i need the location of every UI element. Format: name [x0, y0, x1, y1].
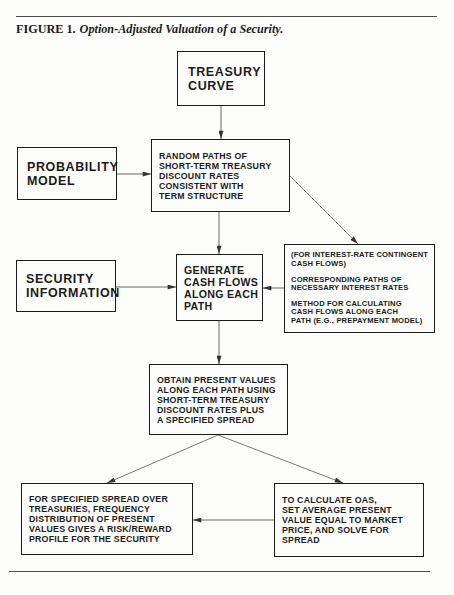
- contingent-paragraph: METHOD FOR CALCULATING CASH FLOWS ALONG …: [291, 300, 434, 326]
- node-text: SET AVERAGE PRESENT: [282, 505, 423, 515]
- node-contingent-inputs: (FOR INTEREST-RATE CONTINGENT CASH FLOWS…: [284, 244, 435, 333]
- node-text: SHORT-TERM TREASURY: [159, 161, 289, 171]
- node-text: SHORT-TERM TREASURY: [157, 395, 287, 405]
- node-random-paths: RANDOM PATHS OF SHORT-TERM TREASURY DISC…: [151, 139, 290, 212]
- node-text: CURVE: [188, 79, 264, 93]
- node-text: PROBABILITY: [27, 160, 116, 174]
- edge-random-to-contingent: [290, 176, 358, 244]
- node-text: ALONG EACH PATH USING: [157, 385, 287, 395]
- node-text: VALUES GIVES A RISK/REWARD: [29, 524, 192, 534]
- node-text: PATH (E.G., PREPAYMENT MODEL): [291, 317, 434, 326]
- node-text: NECESSARY INTEREST RATES: [291, 284, 434, 293]
- node-text: TO CALCULATE OAS,: [282, 495, 423, 505]
- node-text: CONSISTENT WITH: [159, 181, 289, 191]
- contingent-paragraph: (FOR INTEREST-RATE CONTINGENT CASH FLOWS…: [291, 251, 434, 268]
- node-text: PROFILE FOR THE SECURITY: [29, 534, 192, 544]
- node-calculate-oas: TO CALCULATE OAS, SET AVERAGE PRESENT VA…: [274, 483, 424, 557]
- node-text: RANDOM PATHS OF: [159, 151, 289, 161]
- node-text: ALONG EACH: [184, 288, 262, 300]
- node-text: TREASURIES, FREQUENCY: [29, 504, 192, 514]
- bottom-rule: [9, 571, 430, 572]
- node-obtain-present-values: OBTAIN PRESENT VALUES ALONG EACH PATH US…: [149, 364, 288, 435]
- node-text: GENERATE: [184, 264, 262, 276]
- node-risk-reward-profile: FOR SPECIFIED SPREAD OVER TREASURIES, FR…: [21, 483, 193, 555]
- node-text: TERM STRUCTURE: [159, 191, 289, 201]
- node-text: DISCOUNT RATES PLUS: [157, 405, 287, 415]
- node-text: PRICE, AND SOLVE FOR: [282, 525, 423, 535]
- node-text: PATH: [184, 300, 262, 312]
- node-text: INFORMATION: [26, 286, 115, 300]
- node-text: MODEL: [27, 174, 116, 188]
- edge-obtain-to-oas: [218, 435, 343, 483]
- node-probability-model: PROBABILITY MODEL: [17, 147, 117, 200]
- node-text: DISCOUNT RATES: [159, 171, 289, 181]
- node-text: SECURITY: [26, 272, 115, 286]
- node-text: SPREAD: [282, 535, 423, 545]
- node-text: TREASURY: [188, 65, 264, 79]
- node-security-information: SECURITY INFORMATION: [16, 260, 116, 312]
- node-treasury-curve: TREASURY CURVE: [177, 51, 265, 106]
- node-text: CASH FLOWS: [184, 276, 262, 288]
- node-generate-cash-flows: GENERATE CASH FLOWS ALONG EACH PATH: [176, 254, 263, 321]
- contingent-paragraph: CORRESPONDING PATHS OF NECESSARY INTERES…: [291, 276, 434, 293]
- node-text: DISTRIBUTION OF PRESENT: [29, 514, 192, 524]
- node-text: FOR SPECIFIED SPREAD OVER: [29, 494, 192, 504]
- edge-obtain-to-risk: [107, 435, 218, 483]
- node-text: CASH FLOWS): [291, 260, 434, 269]
- node-text: A SPECIFIED SPREAD: [157, 415, 287, 425]
- node-text: VALUE EQUAL TO MARKET: [282, 515, 423, 525]
- node-text: OBTAIN PRESENT VALUES: [157, 375, 287, 385]
